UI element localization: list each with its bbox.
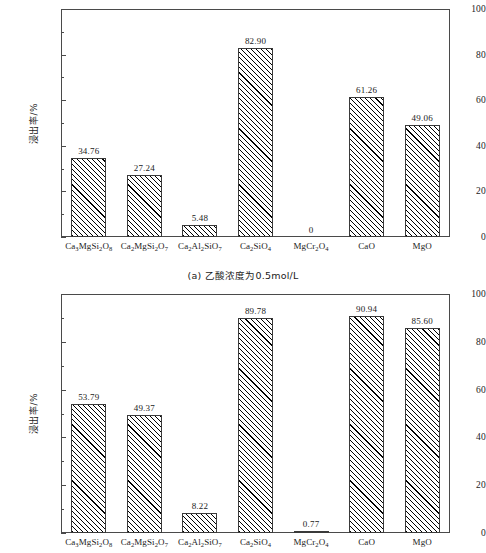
x-axis-tick-label: MgCr2O4 <box>293 537 328 547</box>
bar-value-label: 85.60 <box>412 316 433 326</box>
y-axis-minor-tick <box>61 509 64 510</box>
x-axis-tick-label: Ca2SiO4 <box>240 241 271 251</box>
y-axis-tick <box>61 146 66 147</box>
y-axis-tick <box>61 100 66 101</box>
y-axis-minor-tick <box>61 461 64 462</box>
y-axis-minor-tick <box>61 414 64 415</box>
y-axis-minor-tick <box>61 366 64 367</box>
x-axis-tick-label: Ca2MgSi2O7 <box>121 537 168 547</box>
bar <box>71 404 106 533</box>
y-axis-tick <box>61 485 66 486</box>
x-axis-tick-label: CaO <box>358 537 375 547</box>
y-axis-tick-label: 100 <box>429 4 486 14</box>
bar-value-label: 89.78 <box>245 306 266 316</box>
bar-value-label: 61.26 <box>356 85 377 95</box>
y-axis-tick <box>61 533 66 534</box>
bar <box>349 316 384 533</box>
y-axis-minor-tick <box>61 32 64 33</box>
figure-container: 020406080100浸出率/%34.76Ca3MgSi2O827.24Ca2… <box>0 0 486 553</box>
bar-value-label: 49.06 <box>412 113 433 123</box>
y-axis-tick-label: 80 <box>429 50 486 60</box>
bar <box>182 513 217 533</box>
y-axis-label: 浸出率/% <box>27 102 40 143</box>
y-axis-tick <box>61 55 66 56</box>
y-axis-tick-label: 60 <box>429 95 486 105</box>
bar <box>405 328 440 533</box>
y-axis-tick <box>61 9 66 10</box>
x-axis-tick-label: MgCr2O4 <box>293 241 328 251</box>
y-axis-minor-tick <box>61 123 64 124</box>
panel-a-caption: (a) 乙酸浓度为0.5mol/L <box>0 268 486 282</box>
chart-panel-b: 020406080100浸出率/%53.79Ca3MgSi2O849.37Ca2… <box>0 285 486 553</box>
y-axis-tick <box>61 342 66 343</box>
bar-value-label: 90.94 <box>356 304 377 314</box>
x-axis-tick-label: MgO <box>413 537 432 547</box>
x-axis-tick-label: CaO <box>358 241 375 251</box>
bar <box>405 125 440 237</box>
bar <box>238 318 273 533</box>
bar <box>238 48 273 237</box>
bar-value-label: 49.37 <box>134 403 155 413</box>
bar-value-label: 5.48 <box>192 213 209 223</box>
y-axis-tick-label: 100 <box>429 289 486 299</box>
y-axis-tick <box>61 191 66 192</box>
bar-value-label: 27.24 <box>134 163 155 173</box>
chart-panel-a: 020406080100浸出率/%34.76Ca3MgSi2O827.24Ca2… <box>0 0 486 285</box>
y-axis-minor-tick <box>61 214 64 215</box>
x-axis-tick-label: Ca2Al2SiO7 <box>178 537 222 547</box>
x-axis-tick-label: Ca2Al2SiO7 <box>178 241 222 251</box>
bar-value-label: 0 <box>309 225 314 235</box>
x-axis-tick-label: Ca3MgSi2O8 <box>65 537 112 547</box>
bar <box>127 175 162 237</box>
y-axis-minor-tick <box>61 169 64 170</box>
x-axis-tick-label: Ca2MgSi2O7 <box>121 241 168 251</box>
bar-value-label: 53.79 <box>78 392 99 402</box>
y-axis-tick <box>61 237 66 238</box>
bar-value-label: 0.77 <box>303 519 320 529</box>
bar <box>182 225 217 237</box>
y-axis-minor-tick <box>61 318 64 319</box>
x-axis-tick-label: Ca2SiO4 <box>240 537 271 547</box>
bar <box>127 415 162 533</box>
x-axis-tick-label: Ca3MgSi2O8 <box>65 241 112 251</box>
bar <box>294 531 329 533</box>
y-axis-label: 浸出率/% <box>27 393 40 434</box>
x-axis-tick-label: MgO <box>413 241 432 251</box>
bar-value-label: 8.22 <box>192 501 209 511</box>
bar-value-label: 34.76 <box>78 146 99 156</box>
bar-value-label: 82.90 <box>245 36 266 46</box>
bar <box>349 97 384 237</box>
y-axis-tick <box>61 390 66 391</box>
y-axis-tick <box>61 437 66 438</box>
y-axis-tick <box>61 294 66 295</box>
y-axis-minor-tick <box>61 77 64 78</box>
bar <box>71 158 106 237</box>
